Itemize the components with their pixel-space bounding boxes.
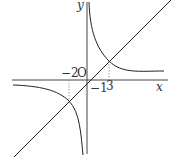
x-axis-label: x	[156, 80, 163, 94]
tick-label-neg2: −2	[61, 66, 79, 80]
function-graph: y x O −2 3 −1	[0, 0, 181, 168]
hyperbola-left-branch	[13, 85, 83, 155]
y-axis-label: y	[76, 0, 84, 12]
line-curve	[14, 0, 171, 157]
hyperbola-right-branch	[89, 2, 164, 71]
tick-label-neg1: −1	[90, 81, 108, 95]
